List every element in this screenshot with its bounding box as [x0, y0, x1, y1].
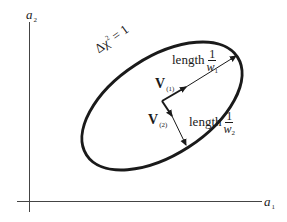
vector-v2-label: V(2) [148, 113, 167, 127]
length-word-2: length [189, 114, 222, 129]
vector-v2-subscript: (2) [159, 121, 167, 129]
fraction-1-den-sub: 1 [215, 67, 219, 75]
confidence-ellipse-diagram: a2 a1 Δχ2 = 1 V(1) length1w1 V(2) length… [0, 0, 287, 222]
fraction-1-over-w2: 1w2 [224, 110, 236, 137]
length-word-1: length [172, 52, 205, 67]
length-label-1: length1w1 [172, 48, 218, 75]
vector-v2-name: V [148, 112, 158, 127]
y-axis-label-text: a [26, 7, 33, 22]
fraction-2-den-w: w [224, 122, 232, 136]
vector-v1-label: V(1) [155, 77, 174, 91]
vector-v1-name: V [155, 76, 165, 91]
vector-v2-extension [172, 116, 186, 145]
fraction-1-over-w1: 1w1 [207, 48, 219, 75]
fraction-1-den-w: w [207, 60, 215, 74]
fraction-2-denominator: w2 [224, 123, 236, 137]
x-axis-label-text: a [264, 194, 271, 209]
diagram-graphics [0, 0, 287, 222]
x-axis-label: a1 [264, 195, 275, 208]
fraction-1-denominator: w1 [207, 61, 219, 75]
length-label-2: length1w2 [189, 110, 235, 137]
x-axis-label-subscript: 1 [272, 203, 276, 211]
y-axis-label: a2 [26, 8, 37, 21]
vector-v1-subscript: (1) [166, 85, 174, 93]
y-axis-label-subscript: 2 [34, 16, 38, 24]
fraction-2-den-sub: 2 [232, 129, 236, 137]
